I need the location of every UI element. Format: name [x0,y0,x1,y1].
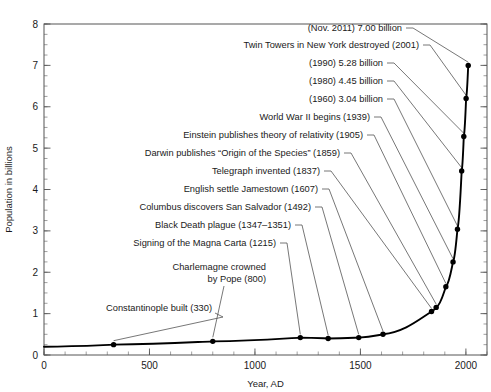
data-point-marker [210,339,215,344]
x-tick-label: 1500 [349,360,372,371]
data-point-marker [461,134,466,139]
annotation-label: (1990) 5.28 billion [309,58,383,68]
annotation-label: (1980) 4.45 billion [309,76,383,86]
data-point-marker [298,335,303,340]
x-tick-label: 1000 [244,360,267,371]
annotation-label: Charlemagne crownedby Pope (800) [172,262,266,284]
annotation-leader [315,207,359,334]
annotation-leader [344,153,436,304]
x-tick-label: 0 [41,360,47,371]
annotation-label: Signing of the Magna Carta (1215) [133,238,276,248]
annotation-leader [322,189,383,331]
annotation-label: Einstein publishes theory of relativity … [183,130,363,140]
annotation-leader [280,243,300,334]
x-axis-title: Year, AD [247,378,284,389]
y-tick-label: 0 [32,350,38,361]
annotation-label: Telegraph invented (1837) [212,166,320,176]
y-tick-label: 5 [32,143,38,154]
data-point-marker [429,309,434,314]
annotation-label: (1960) 3.04 billion [309,94,383,104]
x-tick-label: 2000 [455,360,478,371]
annotation-leader [213,286,224,337]
annotation-label: Darwin publishes “Origin of the Species”… [145,148,340,158]
y-axis-title: Population in billions [3,146,14,233]
annotation-label: English settle Jamestown (1607) [184,184,318,194]
x-axis-tick-labels: 0500100015002000 [41,360,477,371]
y-tick-label: 1 [32,308,38,319]
y-tick-label: 6 [32,101,38,112]
x-tick-label: 500 [141,360,158,371]
annotation-leader [423,45,466,95]
annotation-labels: (Nov. 2011) 7.00 billionTwin Towers in N… [106,23,419,313]
data-point-marker [466,63,471,68]
y-axis-tick-labels: 012345678 [32,19,38,361]
annotation-label: Columbus discovers San Salvador (1492) [139,202,311,212]
annotation-label: Black Death plague (1347–1351) [155,220,291,230]
annotation-leader [367,135,446,284]
annotation-leader [114,313,223,341]
data-point-marker [356,335,361,340]
population-growth-chart: 0500100015002000 012345678 Year, AD Popu… [0,0,491,392]
data-point-marker [443,284,448,289]
data-point-marker [459,168,464,173]
annotation-leader [387,63,464,133]
annotation-leader [295,225,328,335]
annotation-label: (Nov. 2011) 7.00 billion [308,23,402,33]
data-point-marker [450,259,455,264]
data-point-marker [111,342,116,347]
chart-canvas: 0500100015002000 012345678 Year, AD Popu… [0,0,491,392]
data-point-marker [380,332,385,337]
data-point-marker [463,96,468,101]
annotation-leader [324,171,432,308]
y-tick-label: 2 [32,267,38,278]
y-tick-label: 3 [32,225,38,236]
y-tick-label: 8 [32,19,38,30]
y-tick-label: 4 [32,184,38,195]
annotation-label: Twin Towers in New York destroyed (2001) [243,40,419,50]
data-point-marker [433,305,438,310]
annotation-label: World War II begins (1939) [259,112,370,122]
annotation-leader [387,99,458,226]
data-point-marker [325,336,330,341]
y-tick-label: 7 [32,60,38,71]
annotation-label: Constantinople built (330) [106,303,212,313]
data-point-marker [455,227,460,232]
